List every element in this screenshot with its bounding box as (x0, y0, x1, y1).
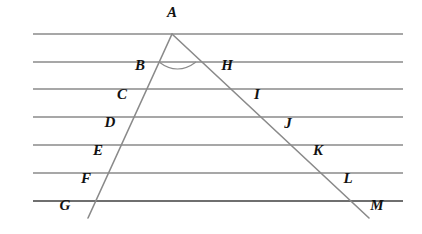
point-label-C: C (117, 86, 128, 102)
point-label-J: J (283, 115, 292, 131)
point-label-L: L (342, 170, 352, 186)
point-label-D: D (104, 114, 116, 130)
point-label-K: K (312, 142, 324, 158)
point-label-A: A (166, 4, 177, 20)
point-label-E: E (92, 142, 103, 158)
point-label-F: F (80, 170, 91, 186)
geometry-diagram: ABCDEFGHIJKLM (0, 0, 422, 234)
point-label-H: H (220, 57, 234, 73)
point-label-I: I (253, 86, 261, 102)
point-label-B: B (134, 57, 145, 73)
point-label-M: M (369, 197, 384, 213)
point-label-G: G (60, 197, 71, 213)
